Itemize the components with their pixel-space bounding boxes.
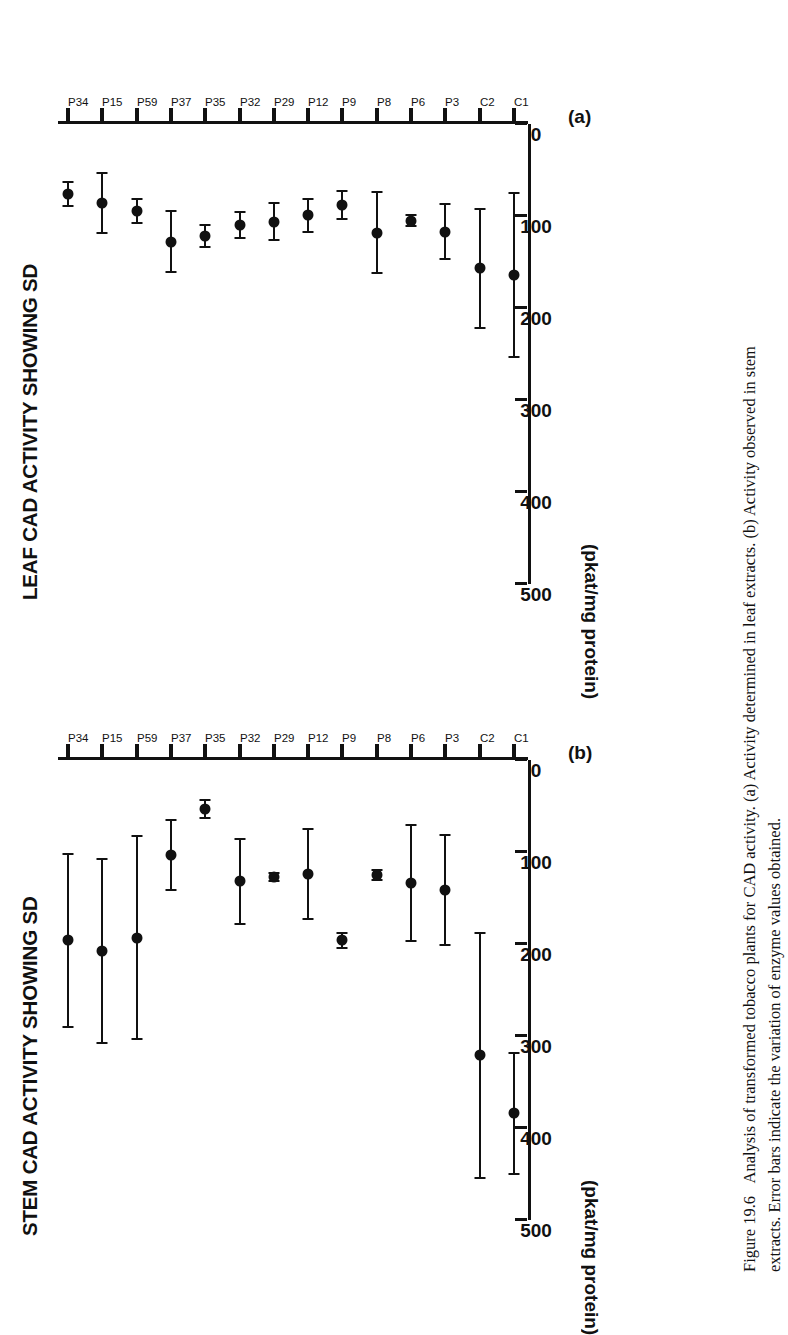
data-point	[440, 226, 451, 237]
value-tick-label: 100	[520, 216, 552, 238]
data-point	[97, 946, 108, 957]
figure-caption: Figure 19.6 Analysis of transformed toba…	[738, 10, 788, 1272]
error-bar-cap	[63, 205, 74, 207]
value-tick	[515, 122, 527, 125]
category-tick	[512, 744, 516, 757]
value-tick-label: 200	[520, 308, 552, 330]
error-bar-cap	[337, 932, 348, 934]
error-bar-cap	[474, 208, 485, 210]
category-tick-label: P59	[137, 96, 157, 108]
data-point	[234, 876, 245, 887]
value-tick	[515, 758, 527, 761]
error-bar-cap	[406, 940, 417, 942]
data-point	[371, 870, 382, 881]
category-axis-line	[58, 757, 528, 760]
category-tick	[409, 744, 413, 757]
category-tick	[135, 744, 139, 757]
category-tick	[169, 744, 173, 757]
error-bar-cap	[234, 923, 245, 925]
data-point	[234, 220, 245, 231]
data-point	[268, 216, 279, 227]
panel-leaf-cad: LEAF CAD ACTIVITY SHOWING SD 01002003004…	[0, 0, 778, 636]
error-bar-cap	[165, 889, 176, 891]
category-tick-label: P6	[411, 96, 425, 108]
category-tick	[203, 744, 207, 757]
data-point	[165, 849, 176, 860]
category-axis-line	[58, 121, 528, 124]
data-point	[509, 1108, 520, 1119]
data-point	[371, 227, 382, 238]
category-tick	[306, 744, 310, 757]
error-bar-cap	[303, 918, 314, 920]
value-tick-label: 200	[520, 944, 552, 966]
value-tick-label: 400	[520, 492, 552, 514]
error-bar-cap	[509, 192, 520, 194]
category-tick-label: P8	[377, 96, 391, 108]
category-tick	[238, 744, 242, 757]
category-tick	[66, 744, 70, 757]
value-tick-label: 500	[520, 584, 552, 606]
data-point	[303, 210, 314, 221]
category-tick-label: C1	[514, 96, 529, 108]
panel-b-title: STEM CAD ACTIVITY SHOWING SD	[18, 897, 42, 1237]
error-bar-cap	[234, 838, 245, 840]
error-bar-cap	[63, 853, 74, 855]
category-tick	[443, 744, 447, 757]
category-tick	[203, 108, 207, 121]
category-tick-label: P15	[102, 732, 122, 744]
category-tick	[478, 108, 482, 121]
panel-a-title: LEAF CAD ACTIVITY SHOWING SD	[18, 264, 42, 600]
value-tick-label: 300	[520, 400, 552, 422]
category-tick-label: C1	[514, 732, 529, 744]
error-bar-cap	[200, 224, 211, 226]
error-bar-cap	[474, 932, 485, 934]
panel-a-tag: (a)	[568, 106, 591, 128]
error-bar-cap	[509, 1173, 520, 1175]
error-bar-cap	[131, 835, 142, 837]
data-point	[337, 935, 348, 946]
value-tick-label: 0	[531, 760, 542, 782]
error-bar-cap	[234, 211, 245, 213]
value-axis-line	[528, 760, 531, 1220]
category-tick-label: P3	[445, 96, 459, 108]
category-tick-label: P37	[171, 732, 191, 744]
category-tick	[340, 744, 344, 757]
data-point	[474, 263, 485, 274]
error-bar-cap	[165, 819, 176, 821]
category-tick-label: P34	[68, 732, 88, 744]
category-tick-label: P37	[171, 96, 191, 108]
category-tick	[135, 108, 139, 121]
error-bar-cap	[200, 817, 211, 819]
category-tick	[375, 108, 379, 121]
value-tick-label: 400	[520, 1128, 552, 1150]
panel-stem-cad: STEM CAD ACTIVITY SHOWING SD 01002003004…	[0, 636, 778, 1272]
category-tick	[100, 744, 104, 757]
category-tick-label: P32	[240, 96, 260, 108]
data-point	[440, 884, 451, 895]
error-bar-cap	[303, 198, 314, 200]
data-point	[200, 231, 211, 242]
category-tick-label: P34	[68, 96, 88, 108]
error-bar-cap	[303, 231, 314, 233]
figure-caption-line1: Analysis of transformed tobacco plants f…	[740, 346, 759, 1183]
error-bar-cap	[165, 271, 176, 273]
error-bar-cap	[509, 1052, 520, 1054]
category-tick-label: P29	[274, 732, 294, 744]
data-point	[131, 932, 142, 943]
panel-b-plot-area: 0100200300400500C1C2P3P6P8P9P12P29P32P35…	[60, 700, 720, 1220]
error-bar-cap	[474, 327, 485, 329]
category-tick-label: P29	[274, 96, 294, 108]
data-point	[337, 199, 348, 210]
error-bar-cap	[371, 272, 382, 274]
error-bar-cap	[97, 858, 108, 860]
error-bar-cap	[337, 218, 348, 220]
category-tick	[443, 108, 447, 121]
error-bar-cap	[200, 246, 211, 248]
value-tick-label: 300	[520, 1036, 552, 1058]
error-bar-cap	[268, 202, 279, 204]
category-tick	[512, 108, 516, 121]
error-bar-cap	[234, 237, 245, 239]
error-bar-cap	[165, 210, 176, 212]
